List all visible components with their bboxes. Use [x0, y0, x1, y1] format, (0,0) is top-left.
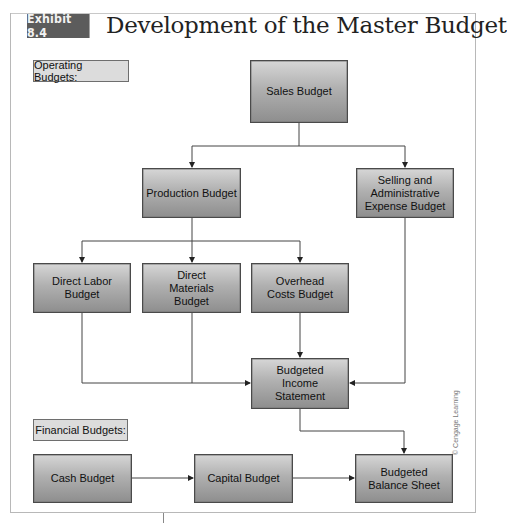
edge-sales-selling	[299, 146, 405, 167]
node-direct-labor-budget: Direct Labor Budget	[33, 263, 131, 313]
edge-income-balance	[300, 409, 404, 453]
edge-sales-production	[192, 123, 299, 167]
edge-labor-income	[82, 313, 250, 383]
edge-production-overhead	[192, 241, 300, 262]
node-budgeted-income-statement: Budgeted Income Statement	[251, 358, 349, 409]
node-cash-budget: Cash Budget	[33, 454, 132, 503]
edge-selling-income	[350, 218, 405, 383]
copyright-credit: © Cengage Learning	[452, 395, 462, 455]
node-budgeted-balance-sheet: Budgeted Balance Sheet	[355, 454, 453, 503]
node-production-budget: Production Budget	[142, 168, 241, 218]
page-gutter-line	[163, 513, 164, 523]
edge-production-labor	[82, 241, 192, 262]
node-sales-budget: Sales Budget	[250, 60, 348, 123]
node-capital-budget: Capital Budget	[194, 454, 293, 503]
node-overhead-costs-budget: Overhead Costs Budget	[251, 263, 349, 313]
node-selling-admin-budget: Selling and Administrative Expense Budge…	[356, 168, 454, 218]
node-direct-materials-budget: Direct Materials Budget	[142, 263, 241, 313]
